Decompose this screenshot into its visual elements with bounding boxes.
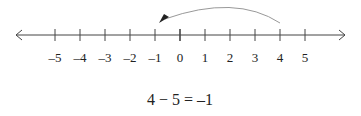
tick-label: 5 <box>302 50 309 65</box>
tick-label: 1 <box>202 50 209 65</box>
tick-label: –1 <box>148 50 162 65</box>
tick-label: 3 <box>252 50 259 65</box>
tick-label: 0 <box>177 50 184 65</box>
number-line-diagram: –5–4–3–2–1012345 4 − 5 = –1 <box>0 0 361 116</box>
tick-label: –3 <box>98 50 112 65</box>
jump-arrow-curve <box>165 7 280 23</box>
tick-label: –2 <box>123 50 137 65</box>
tick-label: 4 <box>277 50 284 65</box>
tick-label: 2 <box>227 50 234 65</box>
equation-text: 4 − 5 = –1 <box>147 91 213 108</box>
tick-label: –4 <box>73 50 88 65</box>
tick-labels: –5–4–3–2–1012345 <box>48 50 309 65</box>
tick-label: –5 <box>48 50 62 65</box>
